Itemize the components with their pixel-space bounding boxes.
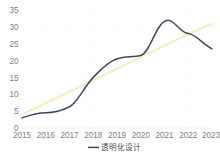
x-tick-label: 2020 (132, 131, 151, 140)
x-axis-tick-labels: 2015 2016 2017 2018 2019 2020 2021 2022 … (13, 131, 220, 140)
x-tick-label: 2022 (179, 131, 198, 140)
x-tick-label: 2017 (60, 131, 79, 140)
legend-label: 透明化设计 (101, 142, 141, 152)
y-axis-tick-labels: 35 30 25 20 15 10 5 0 (9, 6, 19, 133)
y-tick-label: 10 (9, 90, 19, 99)
chart-canvas: 35 30 25 20 15 10 5 0 2015 2016 2017 201… (0, 0, 220, 153)
x-tick-label: 2015 (13, 131, 32, 140)
chart-legend[interactable]: 透明化设计 (88, 142, 141, 152)
y-tick-label: 20 (9, 57, 19, 66)
x-tick-label: 2021 (155, 131, 174, 140)
x-tick-label: 2016 (37, 131, 56, 140)
x-tick-label: 2023 (202, 131, 220, 140)
line-chart: 35 30 25 20 15 10 5 0 2015 2016 2017 201… (0, 0, 220, 153)
x-tick-label: 2018 (84, 131, 103, 140)
y-tick-label: 35 (9, 6, 19, 15)
x-tick-label: 2019 (108, 131, 127, 140)
y-tick-label: 5 (14, 107, 19, 116)
y-tick-label: 25 (9, 40, 19, 49)
y-tick-label: 15 (9, 74, 19, 83)
y-tick-label: 30 (9, 23, 19, 32)
